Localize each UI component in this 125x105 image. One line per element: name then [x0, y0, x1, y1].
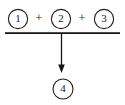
operand-label-2: 2: [58, 12, 64, 24]
plus-operator-2: +: [79, 11, 86, 25]
result-label-4: 4: [60, 82, 66, 94]
operand-node-1[interactable]: 1: [8, 9, 27, 28]
operand-label-1: 1: [15, 12, 21, 24]
result-arrow-head: [58, 65, 65, 74]
operand-label-3: 3: [101, 12, 107, 24]
operand-node-2[interactable]: 2: [51, 9, 70, 28]
plus-operator-1: +: [36, 11, 43, 25]
result-node-4[interactable]: 4: [53, 79, 73, 99]
diagram-canvas: 1 + 2 + 3 4: [0, 0, 125, 105]
summation-diagram: 1 + 2 + 3 4: [0, 0, 125, 105]
operand-node-3[interactable]: 3: [94, 9, 113, 28]
